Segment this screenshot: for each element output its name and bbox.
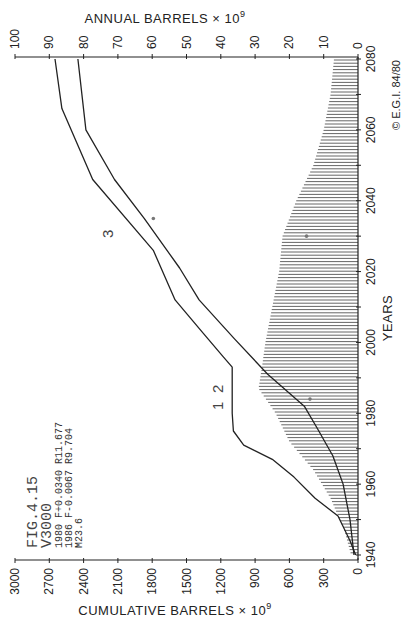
curves [55, 59, 356, 555]
annual-tick-label: 90 [42, 35, 56, 49]
annual-tick-label: 70 [111, 35, 125, 49]
cumulative-tick-label: 2400 [77, 568, 91, 595]
annual-tick-label: 30 [248, 35, 262, 49]
annual-tick-label: 100 [8, 29, 22, 49]
annual-tick-label: 80 [77, 35, 91, 49]
cumulative-tick-label: 3000 [8, 568, 22, 595]
year-tick-label: 1960 [364, 470, 378, 497]
curve-2-label: 2 [209, 385, 226, 393]
annual-axis-title: ANNUAL BARRELS × 109 [85, 9, 246, 26]
year-tick-label: 1940 [364, 541, 378, 568]
fig-param-3: M23.6 [74, 518, 85, 548]
cumulative-tick-label: 900 [248, 568, 262, 588]
cumulative-axis-title: CUMULATIVE BARRELS × 109 [78, 601, 271, 618]
curve-3 [78, 59, 354, 555]
cumulative-tick-label: 1800 [145, 568, 159, 595]
annual-tick-label: 40 [214, 35, 228, 49]
years-axis-title: YEARS [380, 295, 395, 342]
year-tick-label: 2040 [364, 187, 378, 214]
cumulative-tick-label: 600 [282, 568, 296, 588]
curve-3-label: 3 [99, 230, 116, 238]
year-tick-label: 2000 [364, 329, 378, 356]
year-tick-label: 2060 [364, 116, 378, 143]
year-tick-label: 2020 [364, 258, 378, 285]
annual-tick-label: 20 [282, 35, 296, 49]
data-marker [308, 397, 312, 401]
annual-tick-label: 50 [180, 35, 194, 49]
annual-tick-label: 0 [351, 42, 365, 49]
cumulative-tick-label: 2100 [111, 568, 125, 595]
annual-tick-label: 60 [145, 35, 159, 49]
cumulative-tick-label: 2700 [42, 568, 56, 595]
cumulative-tick-label: 1500 [180, 568, 194, 595]
annual-production-area [259, 60, 358, 553]
cumulative-tick-label: 300 [317, 568, 331, 588]
data-marker [152, 217, 156, 221]
year-tick-label: 2080 [364, 45, 378, 72]
cumulative-tick-label: 1200 [214, 568, 228, 595]
year-tick-label: 1980 [364, 400, 378, 427]
cumulative-tick-label: 0 [351, 568, 365, 575]
fig-annotation: FIG.4.15 V3000 1980 F+0.0340 R11.677 198… [25, 422, 85, 548]
annual-tick-label: 10 [317, 35, 331, 49]
curve-1-label: 1 [209, 402, 226, 410]
copyright: © E.G.I. 84/80 [390, 60, 402, 130]
chart: 0102030405060708090100030060090012001500… [0, 0, 410, 634]
data-marker [305, 234, 309, 238]
